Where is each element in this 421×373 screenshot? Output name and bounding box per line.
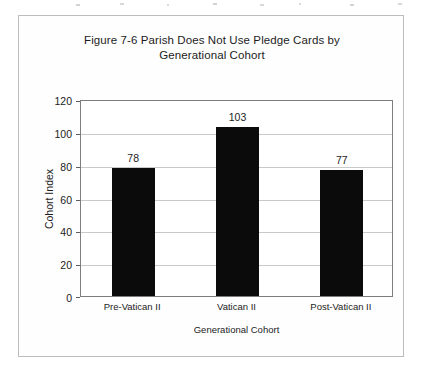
y-axis-tick-label: 20: [60, 259, 72, 271]
y-axis-tick: [76, 200, 80, 201]
bar: 78: [112, 168, 155, 296]
bar-value-label: 77: [336, 154, 348, 166]
y-axis-title-text: Cohort Index: [43, 168, 55, 228]
y-axis-tick-label: 120: [54, 95, 72, 107]
bar-value-label: 103: [229, 111, 247, 123]
x-axis-tick-label: Vatican II: [217, 301, 256, 312]
y-axis-tick-label: 60: [60, 194, 72, 206]
y-axis-tick: [76, 134, 80, 135]
y-axis-tick: [76, 297, 80, 298]
y-axis-tick-label: 100: [54, 128, 72, 140]
x-axis-tick-label: Pre-Vatican II: [104, 301, 161, 312]
x-axis-title: Generational Cohort: [80, 324, 393, 335]
chart-title: Figure 7-6 Parish Does Not Use Pledge Ca…: [19, 33, 405, 63]
bar: 103: [216, 127, 259, 296]
y-axis-tick: [76, 101, 80, 102]
chart-title-line-2: Generational Cohort: [19, 48, 405, 63]
plot-area: 0204060801001207810377: [80, 100, 393, 297]
bar-value-label: 78: [127, 152, 139, 164]
y-axis-tick-label: 80: [60, 161, 72, 173]
x-axis-tick-label: Post-Vatican II: [310, 301, 371, 312]
y-axis-tick: [76, 167, 80, 168]
y-axis-tick: [76, 232, 80, 233]
y-axis-tick-label: 0: [66, 292, 72, 304]
page-scan-bleed: [0, 0, 421, 12]
y-axis-tick: [76, 265, 80, 266]
chart-title-line-1: Figure 7-6 Parish Does Not Use Pledge Ca…: [19, 33, 405, 48]
bar: 77: [320, 170, 363, 296]
chart-figure: Figure 7-6 Parish Does Not Use Pledge Ca…: [18, 15, 404, 357]
y-axis-tick-label: 40: [60, 226, 72, 238]
